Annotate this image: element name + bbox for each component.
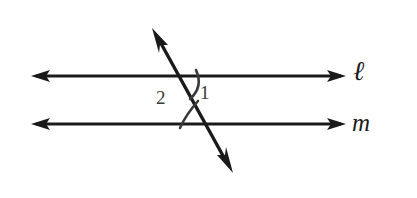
angle-1-label: 1 xyxy=(200,83,210,102)
geometry-diagram: 1 2 ℓ m xyxy=(0,0,417,198)
angle-1-arc xyxy=(190,70,199,99)
angle-2-label: 2 xyxy=(156,88,166,107)
line-m-label: m xyxy=(352,110,370,135)
transversal-shaft xyxy=(158,38,227,163)
line-m-group xyxy=(31,118,346,130)
line-l-label: ℓ xyxy=(353,58,364,85)
line-l-group xyxy=(31,70,346,82)
